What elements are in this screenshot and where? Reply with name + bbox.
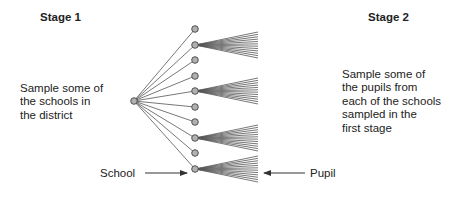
- school-edge: [134, 60, 195, 101]
- school-node: [192, 119, 199, 126]
- school-node: [192, 166, 199, 173]
- school-edge: [134, 76, 195, 101]
- school-node: [192, 150, 199, 157]
- school-edge: [134, 29, 195, 101]
- pupil-fans: [195, 32, 258, 182]
- school-node: [192, 73, 199, 80]
- school-node: [192, 26, 199, 33]
- two-stage-sampling-tree: [0, 0, 450, 197]
- school-node: [192, 42, 199, 49]
- school-edges: [134, 29, 195, 169]
- school-edge: [134, 101, 195, 153]
- school-node: [192, 88, 199, 95]
- school-node: [192, 135, 199, 142]
- district-node: [131, 98, 138, 105]
- school-edge: [134, 101, 195, 138]
- school-node: [192, 57, 199, 64]
- school-node: [192, 104, 199, 111]
- school-nodes: [131, 26, 199, 173]
